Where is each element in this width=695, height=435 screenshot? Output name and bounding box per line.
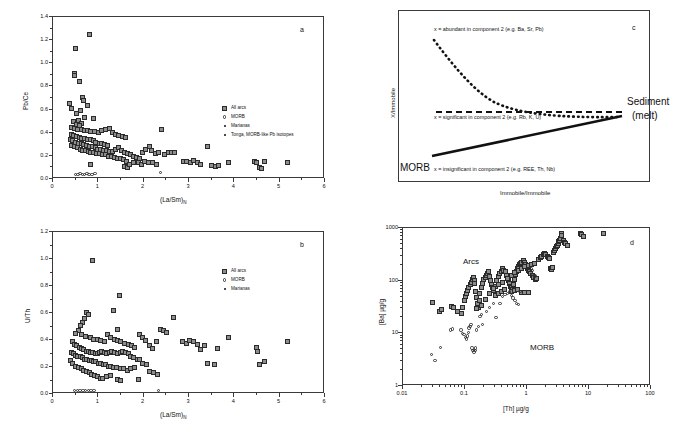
data-point-all-arcs — [262, 159, 267, 164]
data-point-all-arcs — [195, 342, 200, 347]
panel-a-xlabel: (La/Sm)N — [160, 196, 186, 205]
x-minor-tick — [516, 385, 517, 387]
x-tick-label: 1 — [517, 390, 535, 396]
data-point-all-arcs — [72, 73, 77, 78]
x-minor-tick — [582, 385, 583, 387]
y-minor-tick — [400, 291, 402, 292]
y-minor-tick — [50, 120, 52, 121]
x-tick — [324, 178, 325, 182]
x-tick-label: 10 — [579, 390, 597, 396]
x-tick-label: 100 — [641, 390, 659, 396]
x-minor-tick — [75, 178, 76, 180]
y-minor-tick — [50, 245, 52, 246]
data-point-all-arcs — [118, 378, 123, 383]
data-point-arcs — [526, 290, 531, 295]
x-tick-label: 1 — [92, 398, 102, 404]
data-point-all-arcs — [226, 335, 231, 340]
y-tick — [49, 85, 53, 86]
data-point-all-arcs — [285, 160, 290, 165]
y-tick-label: 0.0 — [24, 390, 48, 396]
data-point-morb — [451, 327, 454, 330]
legend-item: All arcs — [222, 267, 332, 276]
panel-b-plot-area — [52, 231, 324, 393]
panel-b-xlabel: (La/Sm)N — [160, 411, 186, 420]
y-tick — [398, 385, 402, 386]
data-point-arcs — [532, 261, 537, 266]
legend-item: MORB — [222, 113, 332, 122]
x-tick-label: 0 — [47, 183, 57, 189]
x-minor-tick — [75, 393, 76, 395]
panel-a: Pb/Ce (La/Sm)N 01234560.00.20.40.60.81.0… — [0, 0, 348, 218]
data-point-all-arcs — [102, 339, 107, 344]
x-tick — [279, 393, 280, 397]
y-tick — [49, 62, 53, 63]
y-minor-tick — [50, 97, 52, 98]
y-tick — [398, 280, 402, 281]
y-minor-tick — [400, 335, 402, 336]
y-tick — [49, 366, 53, 367]
data-point-all-arcs — [198, 162, 203, 167]
data-point-all-arcs — [73, 46, 78, 51]
data-point-all-arcs — [156, 150, 161, 155]
panel-c-xlabel: Immobile/Immobile — [500, 190, 550, 196]
y-minor-tick — [50, 299, 52, 300]
data-point-arcs — [487, 291, 492, 296]
panel-a-xlabel-text: (La/Sm) — [160, 196, 183, 203]
y-minor-tick — [400, 296, 402, 297]
x-minor-tick — [120, 393, 121, 395]
y-tick — [398, 332, 402, 333]
x-minor-tick — [545, 385, 546, 387]
x-tick — [588, 385, 589, 389]
y-tick — [49, 231, 53, 232]
x-minor-tick — [520, 385, 521, 387]
y-tick-label: 0.6 — [24, 106, 48, 112]
filled-square-icon — [222, 269, 227, 274]
x-minor-tick — [421, 385, 422, 387]
data-point-morb — [93, 172, 96, 175]
x-tick — [188, 393, 189, 397]
x-minor-tick — [631, 385, 632, 387]
data-point-all-arcs — [172, 150, 177, 155]
x-tick — [233, 393, 234, 397]
data-point-morb — [530, 269, 533, 272]
panel-c: c X/Immobile Immobile/Immobile x = abund… — [360, 0, 695, 218]
y-minor-tick — [400, 255, 402, 256]
panel-b-xlabel-text: (La/Sm) — [160, 411, 183, 418]
y-tick-label: 100 — [376, 277, 398, 283]
data-point-morb — [498, 302, 501, 305]
x-minor-tick — [569, 385, 570, 387]
data-point-all-arcs — [164, 330, 169, 335]
data-point-arcs — [483, 297, 488, 302]
data-point-arcs — [581, 234, 586, 239]
x-tick-label: 0 — [47, 398, 57, 404]
data-point-arcs — [547, 256, 552, 261]
data-point-all-arcs — [259, 166, 264, 171]
x-minor-tick — [494, 385, 495, 387]
legend-item-label: Marianas — [231, 123, 250, 128]
x-minor-tick — [301, 178, 302, 180]
y-tick — [49, 16, 53, 17]
data-point-arcs — [460, 305, 465, 310]
y-tick-label: 0.2 — [24, 363, 48, 369]
data-point-arcs — [601, 231, 606, 236]
y-tick — [49, 132, 53, 133]
y-tick-label: 1000 — [376, 224, 398, 230]
panel-b-xlabel-sub: N — [183, 415, 186, 420]
y-minor-tick — [50, 353, 52, 354]
data-point-morb — [433, 359, 436, 362]
legend-item: Tonga, MORB-like Pb isotopes — [222, 131, 332, 140]
y-minor-tick — [50, 326, 52, 327]
data-point-all-arcs — [132, 365, 137, 370]
x-tick-label: 5 — [274, 183, 284, 189]
x-minor-tick — [647, 385, 648, 387]
y-minor-tick — [50, 51, 52, 52]
x-tick — [464, 385, 465, 389]
x-minor-tick — [512, 385, 513, 387]
data-point-all-arcs — [205, 361, 210, 366]
x-tick — [188, 178, 189, 182]
x-tick — [97, 178, 98, 182]
data-point-all-arcs — [136, 377, 141, 382]
data-point-all-arcs — [88, 162, 93, 167]
x-minor-tick — [644, 385, 645, 387]
y-tick-label: 0.4 — [24, 129, 48, 135]
